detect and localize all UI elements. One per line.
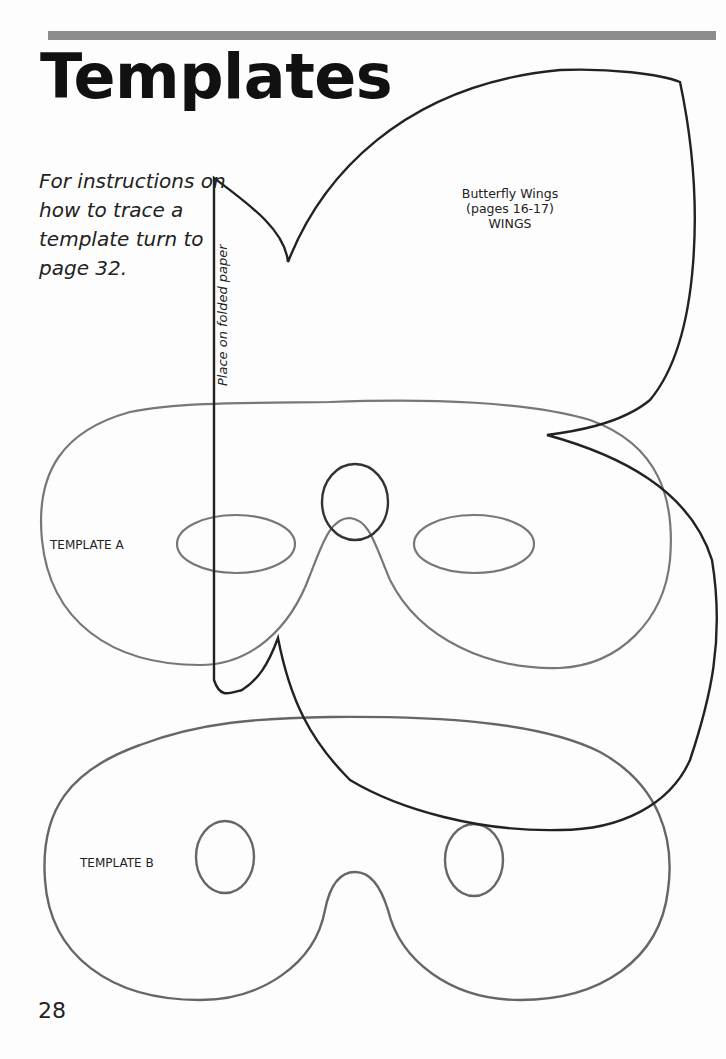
page: Templates For instructions on how to tra…: [0, 0, 726, 1059]
wings-label-pages: (pages 16-17): [420, 201, 600, 216]
template-a-outline: [41, 401, 671, 669]
intro-instructions: For instructions on how to trace a templ…: [39, 167, 239, 283]
template-a-nose-hole: [322, 464, 388, 540]
wings-label-title: Butterfly Wings: [420, 186, 600, 201]
wings-label-name: WINGS: [420, 216, 600, 231]
template-b-label: TEMPLATE B: [80, 856, 154, 870]
butterfly-wing-outline: [214, 70, 717, 831]
page-number: 28: [38, 998, 66, 1023]
wings-template-label: Butterfly Wings (pages 16-17) WINGS: [420, 186, 600, 231]
template-outlines: [0, 0, 726, 1059]
page-title: Templates: [40, 40, 392, 114]
template-a-label: TEMPLATE A: [50, 538, 124, 552]
fold-instruction-label: Place on folded paper: [215, 244, 230, 386]
